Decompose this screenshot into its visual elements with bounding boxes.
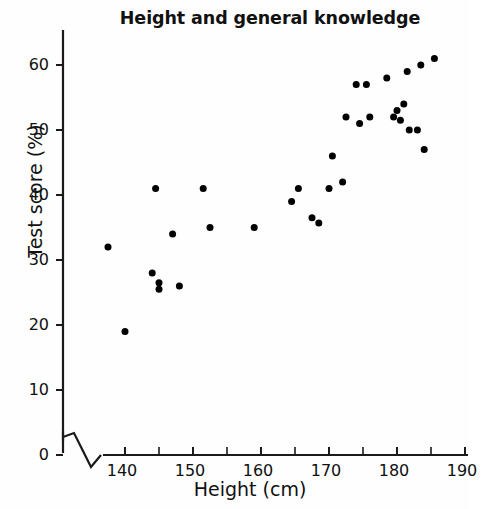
data-point [397,117,404,124]
tick-marks [56,65,465,455]
y-tick-label: 20 [15,315,49,334]
data-point [414,127,421,134]
data-point [326,185,333,192]
x-tick-label: 150 [168,461,212,480]
data-point [383,75,390,82]
data-point [295,185,302,192]
data-point [421,146,428,153]
data-point [400,101,407,108]
data-point [363,81,370,88]
data-point [404,68,411,75]
data-point [152,185,159,192]
data-point [366,114,373,121]
data-point [176,283,183,290]
data-point [356,120,363,127]
data-point [149,270,156,277]
data-point [339,179,346,186]
y-tick-label: 10 [15,380,49,399]
data-point [288,198,295,205]
data-point [417,62,424,69]
data-point [156,279,163,286]
data-point [251,224,258,231]
data-point [309,214,316,221]
x-tick-label: 170 [304,461,348,480]
data-point [353,81,360,88]
data-point [431,55,438,62]
data-point [207,224,214,231]
data-point [329,153,336,160]
x-tick-label: 180 [372,461,416,480]
data-point [343,114,350,121]
y-tick-label: 30 [15,250,49,269]
data-point [394,107,401,114]
axis-lines [63,30,468,467]
data-point-group [105,55,438,335]
data-point [315,219,322,226]
y-tick-label: 40 [15,185,49,204]
x-tick-label: 190 [440,461,481,480]
y-tick-label: 50 [15,120,49,139]
data-point [156,286,163,293]
data-point [169,231,176,238]
data-point [122,328,129,335]
data-point [406,127,413,134]
x-tick-label: 160 [236,461,280,480]
data-point [200,185,207,192]
x-tick-label: 140 [100,461,144,480]
data-point [105,244,112,251]
data-point [390,114,397,121]
y-tick-label: 60 [15,55,49,74]
y-tick-label: 0 [15,445,49,464]
